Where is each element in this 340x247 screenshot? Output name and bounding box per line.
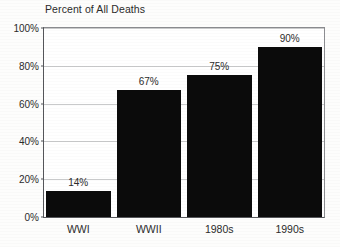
x-axis-label: WWI bbox=[46, 223, 111, 235]
y-axis-label: 100% bbox=[13, 23, 39, 34]
bar-group: 90%1990s bbox=[258, 28, 323, 217]
bar-value-label: 90% bbox=[258, 33, 323, 44]
bar-group: 14%WWI bbox=[46, 28, 111, 217]
bar-value-label: 14% bbox=[46, 177, 111, 188]
bar-series: 14%WWI67%WWII75%1980s90%1990s bbox=[44, 28, 324, 217]
y-axis-label: 80% bbox=[19, 60, 39, 71]
bar-value-label: 67% bbox=[117, 76, 182, 87]
y-axis-label: 40% bbox=[19, 136, 39, 147]
x-axis-label: 1980s bbox=[187, 223, 252, 235]
bar bbox=[258, 47, 323, 217]
bar bbox=[46, 191, 111, 217]
y-axis-label: 0% bbox=[25, 212, 39, 223]
chart-screenshot: Percent of All Deaths 0%20%40%60%80%100%… bbox=[0, 0, 340, 247]
bar bbox=[187, 75, 252, 217]
y-axis-label: 60% bbox=[19, 98, 39, 109]
x-axis-label: 1990s bbox=[258, 223, 323, 235]
chart-title: Percent of All Deaths bbox=[45, 3, 145, 15]
bar bbox=[117, 90, 182, 217]
bar-group: 67%WWII bbox=[117, 28, 182, 217]
bar-group: 75%1980s bbox=[187, 28, 252, 217]
bar-value-label: 75% bbox=[187, 61, 252, 72]
plot-area: 0%20%40%60%80%100% 14%WWI67%WWII75%1980s… bbox=[43, 27, 325, 218]
y-axis-label: 20% bbox=[19, 174, 39, 185]
x-axis-label: WWII bbox=[117, 223, 182, 235]
